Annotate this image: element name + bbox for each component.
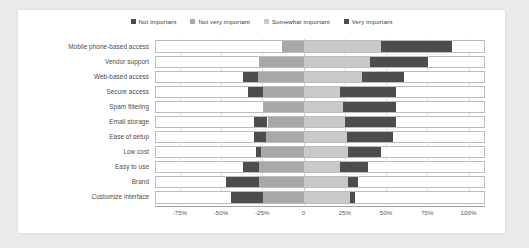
segment-not-important (254, 117, 267, 127)
legend-label: Very important (352, 18, 393, 25)
segment-not-very-important (259, 57, 304, 67)
bar-row[interactable] (155, 191, 485, 203)
bar-row[interactable] (155, 116, 485, 128)
x-tick-label: 25% (339, 209, 351, 216)
category-label: Web-based access (94, 73, 149, 80)
x-tick-label: -50% (214, 209, 228, 216)
legend-swatch-icon (190, 19, 195, 24)
legend-label: Somewhat important (272, 18, 330, 25)
legend-item[interactable]: Not important (131, 18, 177, 25)
legend-swatch-icon (131, 19, 136, 24)
category-label: Easy to use (115, 163, 149, 170)
segment-somewhat-important (304, 102, 344, 112)
category-label: Secure access (106, 88, 149, 95)
x-tick-label: 100% (461, 209, 477, 216)
segment-somewhat-important (304, 162, 340, 172)
category-axis: Mobile phone-based accessVendor supportW… (24, 39, 152, 205)
category-label: Vendor support (105, 58, 149, 65)
category-label: Spam filtering (109, 103, 149, 110)
segment-very-important (340, 162, 368, 172)
legend-swatch-icon (344, 19, 349, 24)
segment-not-important (231, 192, 262, 202)
segment-somewhat-important (304, 177, 349, 187)
segment-not-very-important (258, 72, 304, 82)
category-label: Low cost (123, 148, 149, 155)
chart-legend: Not importantNot very importantSomewhat … (18, 18, 505, 25)
segment-not-important (248, 87, 263, 97)
segment-very-important (343, 102, 396, 112)
segment-somewhat-important (304, 87, 340, 97)
legend-label: Not very important (198, 18, 250, 25)
category-label: Email storage (109, 118, 149, 125)
bar-row[interactable] (155, 56, 485, 68)
segment-somewhat-important (304, 192, 350, 202)
category-label: Ease of setup (109, 133, 149, 140)
bar-row[interactable] (155, 86, 485, 98)
segment-not-important (226, 177, 259, 187)
segment-very-important (340, 87, 396, 97)
x-axis-ticks: -75%-50%-25%025%50%75%100% (155, 209, 485, 223)
segment-somewhat-important (304, 117, 345, 127)
x-tick-label: -75% (173, 209, 187, 216)
x-tick-label: 75% (421, 209, 433, 216)
legend-label: Not important (139, 18, 177, 25)
x-tick-label: 50% (380, 209, 392, 216)
category-label: Brand (132, 178, 149, 185)
segment-somewhat-important (304, 72, 362, 82)
segment-very-important (348, 177, 358, 187)
legend-item[interactable]: Very important (344, 18, 393, 25)
segment-very-important (362, 72, 405, 82)
segment-not-very-important (268, 117, 304, 127)
bar-row[interactable] (155, 176, 485, 188)
segment-not-important (243, 162, 260, 172)
segment-not-very-important (263, 102, 304, 112)
legend-item[interactable]: Somewhat important (264, 18, 330, 25)
segment-very-important (350, 192, 355, 202)
segment-very-important (348, 147, 381, 157)
segment-not-very-important (282, 41, 303, 51)
segment-somewhat-important (304, 57, 370, 67)
bar-row[interactable] (155, 161, 485, 173)
x-tick-label: -25% (255, 209, 269, 216)
segment-not-important (243, 72, 258, 82)
segment-not-very-important (266, 132, 304, 142)
bar-row[interactable] (155, 131, 485, 143)
legend-item[interactable]: Not very important (190, 18, 250, 25)
segment-not-very-important (259, 162, 304, 172)
segment-somewhat-important (304, 147, 349, 157)
segment-not-very-important (263, 87, 304, 97)
bar-row[interactable] (155, 101, 485, 113)
segment-not-very-important (263, 192, 304, 202)
x-axis-line (155, 206, 485, 207)
bar-row[interactable] (155, 40, 485, 52)
segment-not-very-important (259, 177, 304, 187)
segment-somewhat-important (304, 132, 347, 142)
segment-very-important (370, 57, 428, 67)
plot-area (155, 39, 485, 205)
chart-card: Not importantNot very importantSomewhat … (18, 10, 505, 233)
category-label: Customize interface (92, 193, 149, 200)
category-label: Mobile phone-based access (68, 43, 149, 50)
segment-very-important (381, 41, 452, 51)
bar-row[interactable] (155, 71, 485, 83)
segment-not-very-important (261, 147, 304, 157)
segment-somewhat-important (304, 41, 382, 51)
legend-swatch-icon (264, 19, 269, 24)
segment-very-important (345, 117, 396, 127)
bar-row[interactable] (155, 146, 485, 158)
segment-very-important (347, 132, 393, 142)
segment-not-important (254, 132, 266, 142)
x-tick-label: 0 (302, 209, 305, 216)
